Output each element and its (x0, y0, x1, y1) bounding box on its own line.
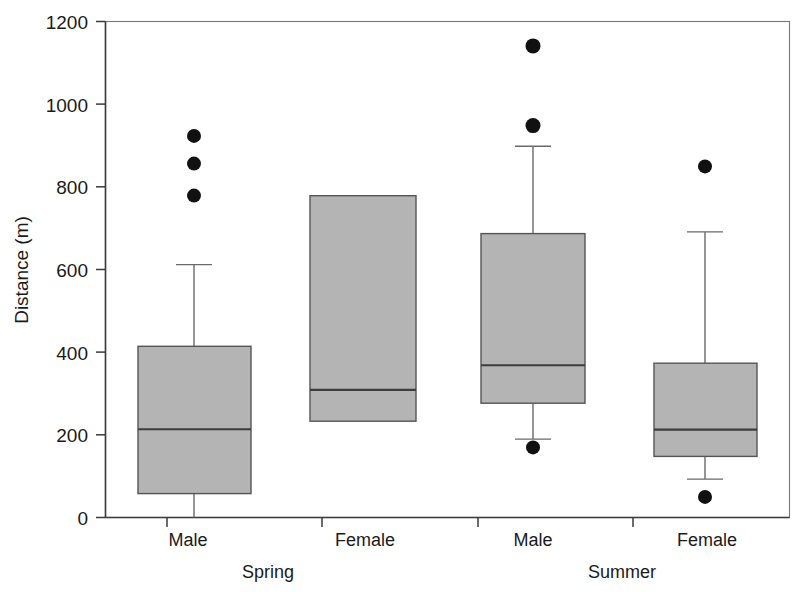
outlier-dot-2-1 (526, 118, 541, 133)
y-axis-title: Distance (m) (11, 216, 32, 324)
x-ticks (167, 518, 633, 528)
y-tick-label-1200: 1200 (46, 12, 88, 33)
outlier-dot-0-0 (187, 129, 201, 143)
box-rect-1 (310, 196, 416, 422)
x-label-summer-male: Male (513, 530, 552, 550)
outlier-dot-2-0 (526, 38, 541, 53)
outlier-dot-3-1 (698, 490, 712, 504)
y-tick-label-0: 0 (77, 508, 88, 529)
box-group-summer-male (481, 38, 585, 454)
box-rect-2 (481, 234, 585, 404)
boxplot-svg: 1200 1000 800 600 400 200 0 Distance (m) (0, 0, 801, 592)
x-label-summer-female: Female (677, 530, 737, 550)
box-rect-3 (654, 363, 757, 456)
outlier-dot-0-2 (187, 189, 201, 203)
box-rect-0 (138, 346, 251, 493)
y-tick-label-1000: 1000 (46, 95, 88, 116)
x-label-spring-female: Female (335, 530, 395, 550)
boxplot-figure: 1200 1000 800 600 400 200 0 Distance (m) (0, 0, 801, 592)
y-tick-label-200: 200 (56, 425, 88, 446)
group-label-summer: Summer (588, 562, 656, 582)
x-label-spring-male: Male (168, 530, 207, 550)
y-tick-label-400: 400 (56, 343, 88, 364)
y-ticks (96, 22, 106, 518)
group-label-spring: Spring (242, 562, 294, 582)
outlier-dot-3-0 (698, 159, 712, 173)
box-group-spring-female (310, 196, 416, 422)
box-group-summer-female (654, 159, 757, 504)
outlier-dot-0-1 (187, 157, 201, 171)
y-tick-label-800: 800 (56, 177, 88, 198)
outlier-dot-2-2 (526, 440, 540, 454)
box-group-spring-male (138, 129, 251, 518)
y-tick-label-600: 600 (56, 260, 88, 281)
